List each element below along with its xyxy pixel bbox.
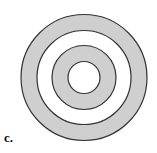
inner-circle <box>68 62 100 94</box>
concentric-circles-figure <box>0 0 157 153</box>
figure-label: c. <box>4 131 13 144</box>
